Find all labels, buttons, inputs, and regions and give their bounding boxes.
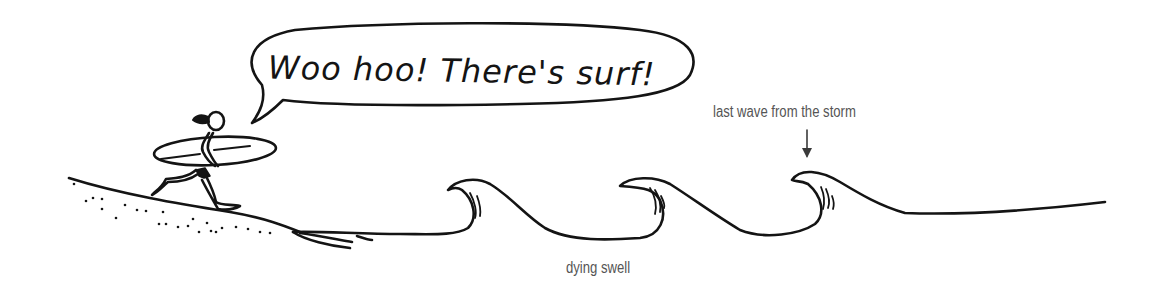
wave-3-spray — [821, 187, 834, 209]
down-arrow-head-icon — [802, 148, 812, 158]
last-wave-label: last wave from the storm — [713, 103, 856, 121]
surfer-front-leg — [202, 176, 240, 210]
sea-line-with-waves — [293, 172, 1105, 239]
drawing — [0, 0, 1159, 295]
dying-swell-label: dying swell — [566, 259, 630, 277]
surfer-hair-icon — [193, 115, 209, 123]
speech-bubble-text: Woo hoo! There's surf! — [268, 49, 656, 94]
sand-dots — [73, 183, 272, 235]
surfer-head — [208, 112, 224, 130]
surf-illustration: Woo hoo! There's surf! last wave from th… — [0, 0, 1159, 295]
surfer-back-leg — [152, 170, 198, 195]
beach-slope — [69, 178, 300, 232]
